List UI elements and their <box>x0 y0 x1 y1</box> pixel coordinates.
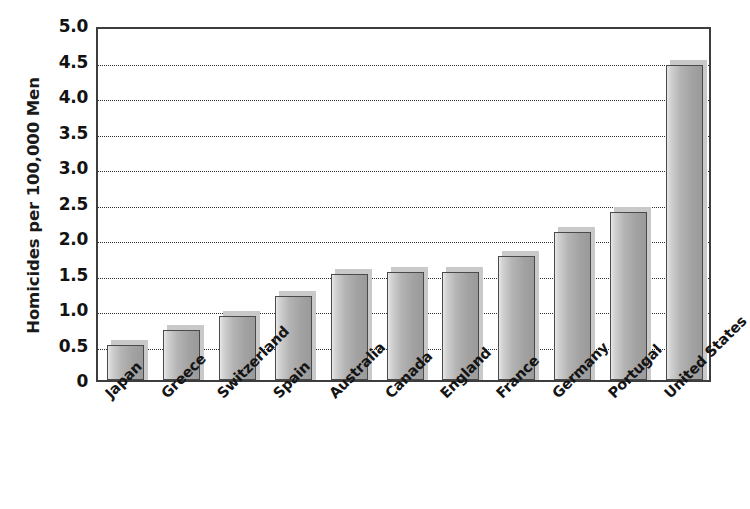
bar-slot <box>489 25 545 380</box>
y-tick-label: 2.0 <box>36 231 88 248</box>
bar-slot <box>98 25 154 380</box>
y-tick-label: 4.5 <box>36 54 88 71</box>
y-tick-label: 0 <box>36 373 88 390</box>
bar-slot <box>322 25 378 380</box>
bar-slot <box>378 25 434 380</box>
y-axis-tick-labels: 00.51.01.52.02.53.03.54.04.55.0 <box>30 0 88 509</box>
bar-slot <box>657 25 713 380</box>
bar-slot <box>601 25 657 380</box>
y-tick-label: 4.0 <box>36 89 88 106</box>
y-tick-label: 5.0 <box>36 18 88 35</box>
x-axis-tick-labels: JapanGreeceSwitzerlandSpainAustraliaCana… <box>96 382 711 509</box>
y-tick-label: 1.0 <box>36 302 88 319</box>
bar-slot <box>545 25 601 380</box>
plot-area <box>96 27 711 382</box>
y-tick-label: 3.5 <box>36 125 88 142</box>
y-tick-label: 1.5 <box>36 267 88 284</box>
bar-slot <box>433 25 489 380</box>
bar[interactable] <box>666 65 703 380</box>
bars-layer <box>98 29 709 380</box>
bar-slot <box>210 25 266 380</box>
bar-slot <box>154 25 210 380</box>
y-tick-label: 2.5 <box>36 196 88 213</box>
y-tick-label: 0.5 <box>36 338 88 355</box>
bar-slot <box>266 25 322 380</box>
y-tick-label: 3.0 <box>36 160 88 177</box>
